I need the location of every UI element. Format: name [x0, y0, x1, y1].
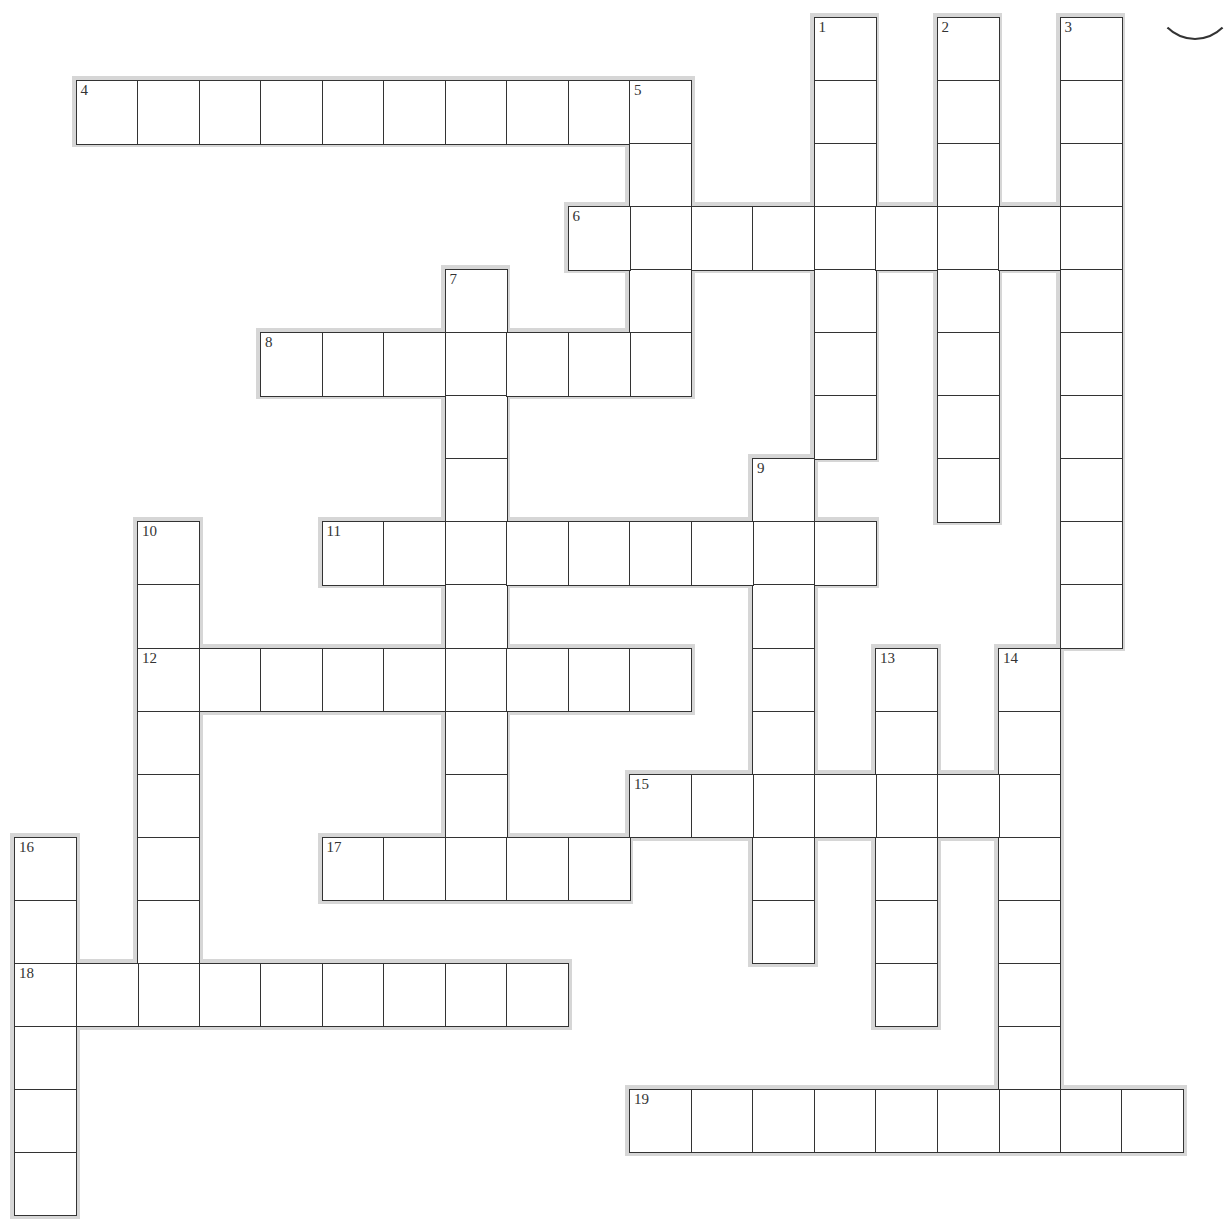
crossword-cell[interactable] — [137, 837, 200, 902]
crossword-cell[interactable] — [629, 206, 692, 271]
crossword-cell[interactable] — [137, 900, 200, 965]
crossword-cell[interactable] — [1121, 1089, 1184, 1154]
crossword-cell[interactable] — [875, 711, 938, 776]
crossword-cell[interactable]: 15 — [629, 774, 692, 839]
crossword-cell[interactable] — [137, 80, 200, 145]
crossword-cell[interactable] — [629, 648, 692, 713]
crossword-cell[interactable] — [998, 837, 1061, 902]
crossword-cell[interactable] — [137, 711, 200, 776]
crossword-cell[interactable] — [1060, 395, 1123, 460]
crossword-cell[interactable] — [445, 80, 508, 145]
crossword-cell[interactable] — [1060, 269, 1123, 334]
crossword-cell[interactable] — [752, 584, 815, 649]
crossword-cell[interactable] — [445, 584, 508, 649]
crossword-cell[interactable] — [1060, 332, 1123, 397]
crossword-cell[interactable] — [568, 521, 631, 586]
crossword-cell[interactable] — [875, 900, 938, 965]
crossword-cell[interactable] — [1060, 1089, 1123, 1154]
crossword-cell[interactable] — [629, 269, 692, 334]
crossword-cell[interactable] — [752, 1089, 815, 1154]
crossword-cell[interactable]: 12 — [137, 648, 200, 713]
crossword-cell[interactable] — [260, 963, 323, 1028]
crossword-cell[interactable] — [998, 206, 1061, 271]
crossword-cell[interactable] — [752, 900, 815, 965]
crossword-cell[interactable] — [752, 206, 815, 271]
crossword-cell[interactable] — [383, 648, 446, 713]
crossword-cell[interactable]: 6 — [568, 206, 631, 271]
crossword-cell[interactable]: 5 — [629, 80, 692, 145]
crossword-cell[interactable] — [814, 269, 877, 334]
crossword-cell[interactable] — [506, 963, 569, 1028]
crossword-cell[interactable]: 1 — [814, 17, 877, 82]
crossword-cell[interactable] — [322, 80, 385, 145]
crossword-cell[interactable] — [445, 648, 508, 713]
crossword-cell[interactable] — [506, 521, 569, 586]
crossword-cell[interactable] — [322, 648, 385, 713]
crossword-cell[interactable] — [1060, 143, 1123, 208]
crossword-cell[interactable] — [568, 837, 631, 902]
crossword-cell[interactable] — [1060, 80, 1123, 145]
crossword-cell[interactable] — [137, 774, 200, 839]
crossword-cell[interactable] — [445, 963, 508, 1028]
crossword-cell[interactable] — [383, 521, 446, 586]
crossword-cell[interactable] — [322, 963, 385, 1028]
crossword-cell[interactable] — [998, 900, 1061, 965]
crossword-cell[interactable] — [875, 963, 938, 1028]
crossword-cell[interactable] — [1060, 458, 1123, 523]
crossword-cell[interactable] — [383, 80, 446, 145]
crossword-cell[interactable] — [998, 963, 1061, 1028]
crossword-cell[interactable] — [445, 395, 508, 460]
crossword-cell[interactable] — [875, 837, 938, 902]
crossword-cell[interactable] — [752, 837, 815, 902]
crossword-cell[interactable]: 9 — [752, 458, 815, 523]
crossword-cell[interactable]: 3 — [1060, 17, 1123, 82]
crossword-cell[interactable] — [445, 711, 508, 776]
crossword-cell[interactable] — [445, 458, 508, 523]
crossword-cell[interactable] — [506, 332, 569, 397]
crossword-cell[interactable] — [629, 332, 692, 397]
crossword-cell[interactable] — [814, 206, 877, 271]
crossword-cell[interactable] — [937, 774, 1000, 839]
crossword-cell[interactable] — [260, 648, 323, 713]
crossword-cell[interactable]: 19 — [629, 1089, 692, 1154]
crossword-cell[interactable] — [875, 1089, 938, 1154]
crossword-cell[interactable]: 4 — [76, 80, 139, 145]
crossword-cell[interactable] — [137, 963, 200, 1028]
crossword-cell[interactable] — [998, 711, 1061, 776]
crossword-cell[interactable] — [629, 521, 692, 586]
crossword-cell[interactable] — [199, 648, 262, 713]
crossword-cell[interactable] — [14, 1026, 77, 1091]
crossword-cell[interactable] — [937, 458, 1000, 523]
crossword-cell[interactable] — [814, 1089, 877, 1154]
crossword-cell[interactable] — [445, 332, 508, 397]
crossword-cell[interactable] — [445, 774, 508, 839]
crossword-cell[interactable] — [814, 521, 877, 586]
crossword-cell[interactable] — [752, 521, 815, 586]
crossword-cell[interactable] — [875, 206, 938, 271]
crossword-cell[interactable] — [199, 80, 262, 145]
crossword-cell[interactable] — [383, 963, 446, 1028]
crossword-cell[interactable] — [1060, 584, 1123, 649]
crossword-cell[interactable] — [383, 332, 446, 397]
crossword-cell[interactable] — [506, 837, 569, 902]
crossword-cell[interactable] — [998, 774, 1061, 839]
crossword-cell[interactable]: 14 — [998, 648, 1061, 713]
crossword-cell[interactable]: 11 — [322, 521, 385, 586]
crossword-cell[interactable] — [568, 80, 631, 145]
crossword-cell[interactable] — [937, 269, 1000, 334]
crossword-cell[interactable] — [752, 711, 815, 776]
crossword-cell[interactable] — [937, 80, 1000, 145]
crossword-cell[interactable] — [14, 900, 77, 965]
crossword-cell[interactable]: 8 — [260, 332, 323, 397]
crossword-cell[interactable] — [752, 774, 815, 839]
crossword-cell[interactable] — [568, 332, 631, 397]
crossword-cell[interactable]: 18 — [14, 963, 77, 1028]
crossword-cell[interactable] — [76, 963, 139, 1028]
crossword-cell[interactable]: 17 — [322, 837, 385, 902]
crossword-cell[interactable] — [691, 1089, 754, 1154]
crossword-cell[interactable] — [814, 80, 877, 145]
crossword-cell[interactable] — [998, 1026, 1061, 1091]
crossword-cell[interactable] — [875, 774, 938, 839]
crossword-cell[interactable] — [937, 143, 1000, 208]
crossword-cell[interactable] — [506, 80, 569, 145]
